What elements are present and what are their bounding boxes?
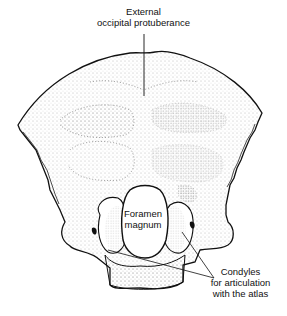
label-external-occipital-protuberance: External occipital protuberance xyxy=(0,6,287,28)
label-line: magnum xyxy=(118,219,168,230)
label-line: Foramen xyxy=(118,208,168,219)
label-line: External xyxy=(0,6,287,17)
label-line: occipital protuberance xyxy=(0,17,287,28)
label-line: for articulation xyxy=(194,277,287,288)
label-line: Condyles xyxy=(194,266,287,277)
label-line: with the atlas xyxy=(194,288,287,299)
label-condyles: Condyles for articulation with the atlas xyxy=(194,266,287,299)
label-foramen-magnum: Foramen magnum xyxy=(118,208,168,230)
